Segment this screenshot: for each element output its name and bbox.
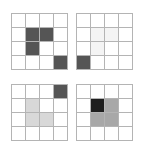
grid-cell[interactable] bbox=[54, 127, 67, 140]
figure-root bbox=[0, 0, 142, 160]
grid-cell[interactable] bbox=[54, 85, 67, 98]
grid-cell[interactable] bbox=[54, 28, 67, 41]
grid-cell[interactable] bbox=[54, 56, 67, 69]
grid-bottom-right bbox=[76, 84, 133, 141]
grid-cell[interactable] bbox=[77, 127, 90, 140]
panel-row-bottom bbox=[0, 70, 142, 141]
grid-cell[interactable] bbox=[12, 85, 25, 98]
grid-cell[interactable] bbox=[91, 42, 104, 55]
grid-cell[interactable] bbox=[40, 113, 53, 126]
grid-cell[interactable] bbox=[91, 85, 104, 98]
grid-cell[interactable] bbox=[91, 56, 104, 69]
grid-cell[interactable] bbox=[54, 99, 67, 112]
grid-cell[interactable] bbox=[26, 56, 39, 69]
grid-cell[interactable] bbox=[105, 113, 118, 126]
grid-top-left bbox=[11, 13, 68, 70]
grid-top-right bbox=[76, 13, 133, 70]
grid-cell[interactable] bbox=[91, 14, 104, 27]
grid-cell[interactable] bbox=[77, 56, 90, 69]
grid-cell[interactable] bbox=[105, 85, 118, 98]
panel-bottom-right[interactable] bbox=[76, 84, 133, 141]
panel-matrix bbox=[0, 0, 142, 160]
grid-cell[interactable] bbox=[26, 42, 39, 55]
grid-cell[interactable] bbox=[26, 14, 39, 27]
grid-cell[interactable] bbox=[105, 14, 118, 27]
grid-cell[interactable] bbox=[40, 127, 53, 140]
panel-top-right[interactable] bbox=[76, 13, 133, 70]
grid-cell[interactable] bbox=[77, 85, 90, 98]
grid-cell[interactable] bbox=[119, 14, 132, 27]
panel-top-left[interactable] bbox=[11, 13, 68, 70]
grid-cell[interactable] bbox=[12, 127, 25, 140]
grid-cell[interactable] bbox=[105, 127, 118, 140]
panel-row-top bbox=[0, 0, 142, 70]
grid-cell[interactable] bbox=[26, 85, 39, 98]
grid-cell[interactable] bbox=[77, 28, 90, 41]
grid-cell[interactable] bbox=[119, 42, 132, 55]
grid-cell[interactable] bbox=[40, 56, 53, 69]
grid-cell[interactable] bbox=[40, 28, 53, 41]
grid-cell[interactable] bbox=[40, 14, 53, 27]
grid-cell[interactable] bbox=[77, 14, 90, 27]
grid-cell[interactable] bbox=[12, 56, 25, 69]
grid-cell[interactable] bbox=[77, 113, 90, 126]
grid-cell[interactable] bbox=[40, 99, 53, 112]
grid-cell[interactable] bbox=[105, 42, 118, 55]
grid-cell[interactable] bbox=[105, 28, 118, 41]
grid-cell[interactable] bbox=[119, 113, 132, 126]
grid-cell[interactable] bbox=[105, 56, 118, 69]
grid-cell[interactable] bbox=[91, 28, 104, 41]
grid-cell[interactable] bbox=[12, 42, 25, 55]
grid-cell[interactable] bbox=[119, 28, 132, 41]
grid-cell[interactable] bbox=[77, 42, 90, 55]
grid-cell[interactable] bbox=[119, 99, 132, 112]
grid-cell[interactable] bbox=[105, 99, 118, 112]
grid-cell[interactable] bbox=[54, 42, 67, 55]
grid-cell[interactable] bbox=[12, 28, 25, 41]
grid-cell[interactable] bbox=[26, 99, 39, 112]
grid-cell[interactable] bbox=[12, 14, 25, 27]
grid-cell[interactable] bbox=[26, 113, 39, 126]
grid-cell[interactable] bbox=[12, 99, 25, 112]
grid-cell[interactable] bbox=[119, 85, 132, 98]
grid-cell[interactable] bbox=[119, 127, 132, 140]
panel-bottom-left[interactable] bbox=[11, 84, 68, 141]
grid-cell[interactable] bbox=[91, 113, 104, 126]
grid-cell[interactable] bbox=[54, 14, 67, 27]
grid-cell[interactable] bbox=[54, 113, 67, 126]
grid-cell[interactable] bbox=[26, 127, 39, 140]
grid-cell[interactable] bbox=[40, 85, 53, 98]
grid-cell[interactable] bbox=[77, 99, 90, 112]
grid-cell[interactable] bbox=[119, 56, 132, 69]
grid-cell[interactable] bbox=[91, 99, 104, 112]
grid-bottom-left bbox=[11, 84, 68, 141]
grid-cell[interactable] bbox=[40, 42, 53, 55]
grid-cell[interactable] bbox=[91, 127, 104, 140]
grid-cell[interactable] bbox=[26, 28, 39, 41]
grid-cell[interactable] bbox=[12, 113, 25, 126]
